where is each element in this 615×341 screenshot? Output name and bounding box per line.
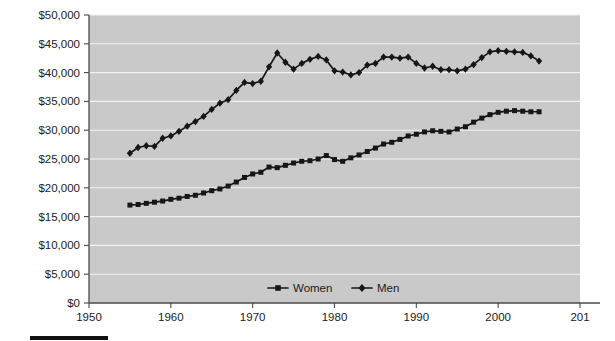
data-point-marker (185, 194, 190, 199)
data-point-marker (324, 153, 329, 158)
data-point-marker (258, 170, 263, 175)
data-point-marker (397, 137, 402, 142)
data-point-marker (455, 127, 460, 132)
data-point-marker (381, 142, 386, 147)
data-point-marker (242, 175, 247, 180)
data-point-marker (127, 203, 132, 208)
data-point-marker (152, 200, 157, 205)
data-point-marker (291, 161, 296, 166)
data-point-marker (479, 116, 484, 121)
data-point-marker (471, 120, 476, 125)
data-point-marker (348, 155, 353, 160)
y-tick-label: $0 (67, 297, 80, 309)
x-tick-label: 201 (570, 311, 589, 323)
data-point-marker (250, 171, 255, 176)
data-point-marker (528, 109, 533, 114)
data-point-marker (144, 201, 149, 206)
data-point-marker (283, 163, 288, 168)
data-point-marker (177, 196, 182, 201)
y-tick-label: $40,000 (38, 67, 80, 79)
data-point-marker (217, 186, 222, 191)
y-tick-label: $45,000 (38, 38, 80, 50)
x-tick-label: 1950 (76, 311, 102, 323)
data-point-marker (422, 129, 427, 134)
x-tick-label: 2000 (485, 311, 511, 323)
data-point-marker (234, 180, 239, 185)
caption-rule (30, 336, 108, 340)
data-point-marker (520, 109, 525, 114)
data-point-marker (267, 165, 272, 170)
legend-label: Women (293, 282, 332, 294)
data-point-marker (299, 159, 304, 164)
data-point-marker (447, 129, 452, 134)
data-point-marker (160, 199, 165, 204)
data-point-marker (357, 152, 362, 157)
data-point-marker (340, 159, 345, 164)
data-point-marker (430, 128, 435, 133)
data-point-marker (496, 110, 501, 115)
data-point-marker (307, 158, 312, 163)
data-point-marker (365, 149, 370, 154)
data-point-marker (438, 129, 443, 134)
y-tick-label: $15,000 (38, 211, 80, 223)
data-point-marker (389, 140, 394, 145)
data-point-marker (463, 124, 468, 129)
x-tick-label: 1970 (240, 311, 266, 323)
y-tick-label: $25,000 (38, 153, 80, 165)
data-point-marker (487, 112, 492, 117)
data-point-marker (168, 197, 173, 202)
data-point-marker (406, 133, 411, 138)
data-point-marker (226, 184, 231, 189)
data-point-marker (275, 285, 281, 291)
chart-figure: $0$5,000$10,000$15,000$20,000$25,000$30,… (0, 0, 615, 341)
y-tick-label: $35,000 (38, 95, 80, 107)
y-tick-label: $20,000 (38, 182, 80, 194)
x-tick-label: 1980 (322, 311, 348, 323)
y-tick-label: $10,000 (38, 239, 80, 251)
data-point-marker (373, 146, 378, 151)
data-point-marker (504, 109, 509, 114)
x-tick-label: 1960 (158, 311, 184, 323)
data-point-marker (275, 165, 280, 170)
x-tick-label: 1990 (404, 311, 430, 323)
y-tick-label: $50,000 (38, 9, 80, 21)
data-point-marker (316, 157, 321, 162)
data-point-marker (209, 188, 214, 193)
data-point-marker (537, 109, 542, 114)
data-point-marker (201, 190, 206, 195)
legend-label: Men (377, 282, 399, 294)
data-point-marker (136, 202, 141, 207)
data-point-marker (512, 108, 517, 113)
earnings-line-chart: $0$5,000$10,000$15,000$20,000$25,000$30,… (0, 0, 615, 341)
y-tick-label: $30,000 (38, 124, 80, 136)
y-tick-label: $5,000 (45, 268, 80, 280)
data-point-marker (414, 132, 419, 137)
data-point-marker (193, 193, 198, 198)
data-point-marker (332, 157, 337, 162)
